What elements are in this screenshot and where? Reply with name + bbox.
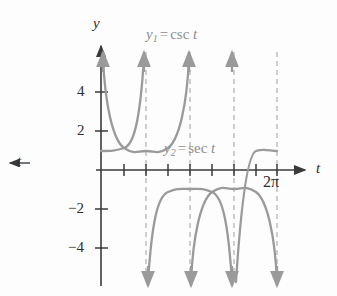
sec-label-argument: t [211, 140, 215, 156]
sec-label-function: sec [188, 140, 207, 156]
y-axis-label: y [93, 16, 100, 31]
sec-label-var: y [164, 140, 171, 156]
csc-label-var: y [146, 26, 153, 42]
sec-label-equals: = [176, 140, 188, 156]
trig-graph-figure: y t t 4 2 −2 −4 2π y1=csc t y2=sec t [0, 0, 337, 296]
csc-curve-label: y1=csc t [146, 27, 197, 44]
csc-label-equals: = [158, 26, 170, 42]
y-tick-label-neg4: −4 [68, 240, 84, 255]
t-axis-label-left: t [17, 154, 21, 169]
x-axis-two-pi-label: 2π [263, 174, 279, 190]
sec-label-subscript: 2 [171, 147, 176, 158]
t-axis-label-right: t [316, 161, 320, 176]
csc-label-argument: t [193, 26, 197, 42]
axes-group [10, 46, 305, 286]
y-tick-label-4: 4 [77, 84, 85, 99]
csc-label-subscript: 1 [153, 33, 158, 44]
sec-curve-label: y2=sec t [164, 141, 215, 158]
y-tick-label-neg2: −2 [68, 201, 84, 216]
csc-label-function: csc [170, 26, 189, 42]
y-tick-label-2: 2 [77, 123, 85, 138]
